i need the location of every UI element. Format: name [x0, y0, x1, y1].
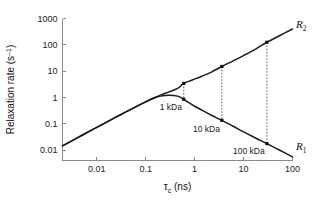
- x-tick-label: 100: [285, 164, 300, 174]
- y-tick-label: 0.1: [45, 119, 58, 129]
- annotation-label: 10 kDa: [193, 124, 220, 134]
- relaxation-rate-chart: 0.010.11101001000 0.010.1110100 1 kDa10 …: [0, 0, 321, 209]
- annotation-label: 100 kDa: [233, 146, 265, 156]
- data-point-marker: [220, 119, 223, 122]
- annotation-labels: 1 kDa10 kDa100 kDa: [160, 102, 265, 156]
- series-label-r1: R1: [295, 140, 307, 155]
- x-axis-tick-labels: 0.010.1110100: [88, 164, 300, 174]
- x-axis-ticks: [97, 157, 293, 161]
- y-tick-label: 100: [42, 40, 57, 50]
- chart-canvas: 0.010.11101001000 0.010.1110100 1 kDa10 …: [0, 0, 321, 209]
- x-tick-label: 10: [239, 164, 249, 174]
- x-axis-title: τc (ns): [164, 181, 191, 194]
- series-line-r2: [63, 29, 293, 146]
- y-tick-label: 0.01: [40, 145, 58, 155]
- annotation-label: 1 kDa: [160, 102, 182, 112]
- data-point-marker: [265, 41, 268, 44]
- x-tick-label: 0.1: [139, 164, 152, 174]
- x-tick-label: 1: [192, 164, 197, 174]
- x-tick-label: 0.01: [88, 164, 106, 174]
- series-label-r2: R2: [295, 18, 307, 33]
- y-axis-ticks: [63, 19, 67, 151]
- y-tick-label: 1: [52, 93, 57, 103]
- y-tick-label: 1000: [37, 14, 57, 24]
- data-point-marker: [182, 98, 185, 101]
- data-point-marker: [182, 82, 185, 85]
- data-point-marker: [265, 142, 268, 145]
- data-point-marker: [220, 65, 223, 68]
- y-axis-title: Relaxation rate (s–1): [5, 45, 17, 135]
- y-axis-tick-labels: 0.010.11101001000: [37, 14, 57, 156]
- y-tick-label: 10: [47, 66, 57, 76]
